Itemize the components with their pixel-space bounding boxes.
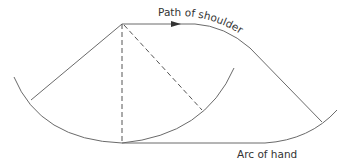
left-hand-arc xyxy=(14,77,122,143)
shoulder-path-label: Path of shoulder xyxy=(158,6,246,36)
diagonal-dashed-arm-line xyxy=(124,25,202,110)
shoulder-arm-diagram: Path of shoulder Arc of hand xyxy=(0,0,350,163)
left-arm-line xyxy=(31,24,122,100)
shoulder-path xyxy=(122,24,322,122)
middle-hand-arc xyxy=(122,68,234,143)
hand-arc-label: Arc of hand xyxy=(237,148,297,160)
right-hand-arc xyxy=(122,110,337,143)
arrow-head-icon xyxy=(171,21,181,27)
